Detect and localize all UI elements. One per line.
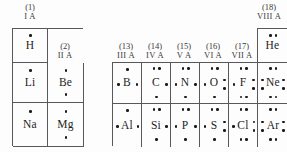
element-symbol: Mg [48,119,83,131]
valence-dot [216,67,219,70]
valence-dot [245,96,248,99]
element-cell-be[interactable]: Be [48,63,84,103]
group-header-14: (14) IV A [140,42,170,60]
valence-dot [211,108,214,111]
valence-dot [269,34,272,37]
element-symbol: H [13,40,47,52]
group-header-17: (17) VII A [227,42,257,60]
element-symbol: Be [48,77,83,89]
element-cell-li[interactable]: Li [13,63,48,103]
left-element-block: H Li Be Na Mg [12,28,83,146]
element-symbol: O [200,77,228,89]
element-symbol: Li [13,77,47,89]
group-roman: III A [111,51,141,60]
right-element-block: B C N O [112,62,287,146]
valence-dot [240,67,243,70]
element-cell-s[interactable]: S [200,104,229,147]
valence-dot [126,68,129,71]
element-symbol: S [200,120,228,132]
element-cell-h[interactable]: H [13,29,48,63]
element-symbol: Ar [258,120,287,132]
element-cell-c[interactable]: C [142,63,171,104]
element-cell-f[interactable]: F [229,63,258,104]
element-cell-si[interactable]: Si [142,104,171,147]
valence-dot [216,108,219,111]
valence-dot [275,138,278,141]
element-cell-n[interactable]: N [171,63,200,104]
element-cell-b[interactable]: B [113,63,142,104]
element-cell-o[interactable]: O [200,63,229,104]
element-symbol: Si [142,120,170,132]
valence-dot [158,67,161,70]
valence-dot [245,138,248,141]
valence-dot [213,138,216,141]
element-symbol: F [229,77,257,89]
valence-dot [29,34,32,37]
valence-dot [213,96,216,99]
element-symbol: Ne [258,77,287,89]
element-cell-na[interactable]: Na [13,103,48,147]
group-header-18: (18) VIII A [252,3,286,21]
group-roman: VIII A [252,12,286,21]
element-symbol: He [258,40,287,52]
valence-dot [269,108,272,111]
valence-dot [240,138,243,141]
element-symbol: N [171,77,199,89]
valence-dot [29,69,32,72]
element-symbol: Al [113,120,141,132]
valence-dot [211,67,214,70]
group-header-16: (16) VI A [198,42,228,60]
valence-dot [126,109,129,112]
valence-dot [155,138,158,141]
group-roman: IV A [140,51,170,60]
valence-dot [275,34,278,37]
valence-dot [182,67,185,70]
group-roman: V A [169,51,199,60]
element-cell-cl[interactable]: Cl [229,104,258,147]
valence-dot [275,108,278,111]
valence-dot [65,69,68,72]
valence-dot [65,110,68,113]
valence-dot [187,67,190,70]
valence-dot [153,108,156,111]
valence-dot [29,110,32,113]
group-roman: VI A [198,51,228,60]
group-roman: VII A [227,51,257,60]
valence-dot [269,96,272,99]
valence-dot [269,67,272,70]
valence-dot [153,67,156,70]
group-roman: I A [12,12,48,21]
valence-dot [245,67,248,70]
group-header-13: (13) III A [111,42,141,60]
valence-dot [184,96,187,99]
valence-dot [240,108,243,111]
valence-dot [65,93,68,96]
element-cell-he[interactable]: He [258,29,287,63]
group-header-15: (15) V A [169,42,199,60]
valence-dot [155,96,158,99]
valence-dot [65,136,68,139]
valence-dot [275,96,278,99]
valence-dot [184,138,187,141]
element-symbol: P [171,120,199,132]
element-cell-mg[interactable]: Mg [48,103,84,147]
valence-dot [182,108,185,111]
valence-dot [158,108,161,111]
element-cell-ar[interactable]: Ar [258,104,287,147]
helium-block: He [257,28,287,62]
valence-dot [245,108,248,111]
element-symbol: Na [13,119,47,131]
group-header-1: (1) I A [12,3,48,21]
element-symbol: B [113,77,141,89]
element-cell-ne[interactable]: Ne [258,63,287,104]
valence-dot [187,108,190,111]
element-cell-al[interactable]: Al [113,104,142,147]
valence-dot [269,138,272,141]
element-symbol: C [142,77,170,89]
element-symbol: Cl [229,120,257,132]
periodic-table-figure: (1) I A (2) II A (13) III A (14) IV A (1… [0,0,287,152]
element-cell-p[interactable]: P [171,104,200,147]
valence-dot [240,96,243,99]
valence-dot [275,67,278,70]
